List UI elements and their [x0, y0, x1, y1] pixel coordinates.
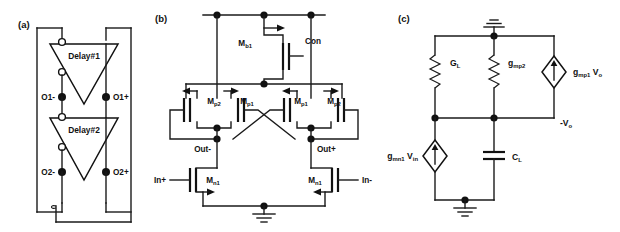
source-gmp1-vo-label: gmp1 Vo: [573, 67, 603, 78]
in-plus-label: In+: [154, 176, 166, 185]
ground-symbol: [253, 206, 275, 222]
conductance-gmp2-label: gmp2: [508, 58, 526, 69]
pmos-rail-node: [260, 80, 267, 87]
transistor-mp2-right-label: Mp2: [327, 97, 341, 107]
conductance-gl[interactable]: [430, 36, 440, 118]
circuit-figure: (a) Delay#1: [0, 0, 620, 232]
panel-b-label: (b): [155, 13, 167, 24]
figure-canvas: (a) Delay#1: [0, 0, 620, 232]
terminal-o1-minus-label: O1-: [41, 93, 55, 102]
transistor-mb1[interactable]: [264, 15, 303, 84]
output-node-label: -Vo: [560, 118, 573, 129]
transistor-mp2-left[interactable]: [170, 87, 217, 139]
source-gmp1-vo[interactable]: [542, 36, 566, 118]
mp2-right-source-arrow: [331, 87, 339, 94]
panel-c-label: (c): [398, 13, 410, 24]
transistor-mn1-right-label: Mn1: [308, 176, 322, 186]
panel-a-stage2-to-feedback-wires: [52, 172, 107, 208]
terminal-o1-plus-label: O1+: [113, 93, 129, 102]
conductance-gmp2[interactable]: [489, 36, 499, 118]
transistor-mp1-left-label: Mp1: [240, 97, 254, 107]
transistor-mn1-left-label: Mn1: [206, 176, 220, 186]
out-minus-label: Out-: [194, 145, 211, 154]
terminal-o2-minus-label: O2-: [41, 168, 55, 177]
out-plus-label: Out+: [317, 145, 336, 154]
transistor-mp1-right-label: Mp1: [294, 97, 308, 107]
delay2-input-bubble-left: [59, 114, 66, 121]
capacitor-cl[interactable]: [483, 118, 505, 200]
transistor-mb1-label: Mb1: [238, 39, 252, 49]
in-minus-label: In-: [362, 176, 372, 185]
control-net-label: Con: [305, 37, 321, 46]
panel-a: (a) Delay#1: [18, 19, 131, 222]
transistor-mn1-left[interactable]: [170, 168, 217, 206]
panel-b: (b) Mb1 Con: [154, 11, 372, 222]
transistor-mp2-left-label: Mp2: [207, 97, 221, 107]
mp1-right-source-arrow: [282, 87, 290, 94]
delay-block-1-label: Delay#1: [68, 51, 100, 61]
delay1-input-bubble-left: [59, 39, 66, 46]
transistor-mp2-right[interactable]: [311, 87, 358, 139]
capacitor-cl-label: CL: [512, 152, 522, 163]
panel-a-label: (a): [18, 19, 30, 30]
mp1-left-source-arrow: [231, 87, 239, 94]
mb1-source-arrow: [277, 24, 285, 31]
ground-symbol-bottom: [454, 200, 476, 216]
terminal-o2-plus-label: O2+: [113, 168, 129, 177]
conductance-gl-label: GL: [450, 58, 461, 69]
source-gmn1-vin-label: gmn1 Vin: [387, 151, 418, 162]
source-gmn1-vin[interactable]: [423, 118, 447, 200]
panel-c: (c) GL gmp2: [387, 13, 602, 216]
transistor-mn1-right[interactable]: [311, 168, 358, 206]
delay-block-2-label: Delay#2: [68, 125, 100, 135]
